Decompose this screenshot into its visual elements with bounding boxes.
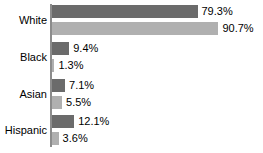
category-label-white: White bbox=[0, 14, 47, 26]
bar-value-label: 5.5% bbox=[66, 96, 91, 109]
bar-white-series-1 bbox=[52, 5, 198, 18]
bar-value-label: 79.3% bbox=[202, 5, 233, 18]
bar-value-label: 90.7% bbox=[222, 22, 253, 35]
bar-value-label: 3.6% bbox=[63, 132, 88, 145]
bar-value-label: 1.3% bbox=[58, 59, 83, 72]
plot-area: 79.3%90.7%9.4%1.3%7.1%5.5%12.1%3.6% bbox=[52, 0, 263, 153]
bar-black-series-2 bbox=[52, 59, 54, 72]
bar-chart: 79.3%90.7%9.4%1.3%7.1%5.5%12.1%3.6% Whit… bbox=[0, 0, 263, 153]
category-label-hispanic: Hispanic bbox=[0, 124, 47, 136]
category-label-black: Black bbox=[0, 51, 47, 63]
bar-value-label: 9.4% bbox=[73, 42, 98, 55]
bar-value-label: 7.1% bbox=[69, 79, 94, 92]
category-label-asian: Asian bbox=[0, 88, 47, 100]
bar-asian-series-1 bbox=[52, 79, 65, 92]
bar-hispanic-series-2 bbox=[52, 132, 59, 145]
bar-black-series-1 bbox=[52, 42, 69, 55]
bar-asian-series-2 bbox=[52, 96, 62, 109]
bar-value-label: 12.1% bbox=[78, 115, 109, 128]
bar-white-series-2 bbox=[52, 22, 218, 35]
bar-hispanic-series-1 bbox=[52, 115, 74, 128]
